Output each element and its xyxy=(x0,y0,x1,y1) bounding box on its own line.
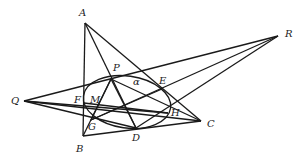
point-label-E: E xyxy=(159,76,166,86)
point-label-D: D xyxy=(132,133,140,143)
point-label-C: C xyxy=(207,119,215,129)
point-label-P: P xyxy=(113,63,120,73)
point-label-B: B xyxy=(76,144,83,154)
point-label-H: H xyxy=(171,108,180,118)
point-label-G: G xyxy=(88,122,96,132)
diagram-canvas xyxy=(0,0,301,161)
point-label-A: A xyxy=(79,8,86,18)
point-label-Q: Q xyxy=(11,96,19,106)
geometry-diagram: ABCDEFGHMPQRα xyxy=(0,0,301,161)
point-label-F: F xyxy=(74,95,81,105)
point-label-R: R xyxy=(285,29,293,39)
segment-AB xyxy=(83,23,85,136)
segment-QR xyxy=(24,36,278,101)
segment-AC xyxy=(85,23,201,121)
segment-RD xyxy=(136,36,278,128)
angle-label-alpha: α xyxy=(133,77,140,87)
segment-BC xyxy=(83,121,201,136)
point-label-M: M xyxy=(90,95,100,105)
